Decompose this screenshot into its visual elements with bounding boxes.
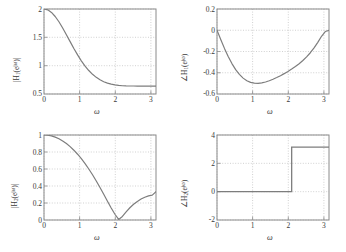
curve-magnitude-h2 [44,135,156,219]
xtick-br-2: 2 [281,221,295,230]
yaxis-label-tl: |H1(ejω)| [12,58,21,82]
subplot-magnitude-h2: 1 0.8 0.6 0.4 0.2 0 0 1 2 3 ω |H2(ejω)| [0,126,173,252]
figure-frequency-responses: 2 1.5 1 0.5 0 1 2 3 ω |H1(ejω)| [0,0,346,252]
curve-phase-h2 [217,147,329,192]
yaxis-label-br-prefix: ∠H [180,196,189,208]
xtick-tr-3: 3 [317,95,331,104]
yaxis-label-bl-prefix: |H [10,201,19,208]
yaxis-label-tl-prefix: |H [12,75,21,82]
curve-magnitude-h1-main [44,9,156,86]
yaxis-label-tr-sup: jω [180,56,186,61]
yaxis-label-br-sub: 2 [183,193,189,196]
ytick-tr-0p2: 0.2 [187,5,215,14]
axes-box-bl [44,135,156,220]
yaxis-label-tl-suffix: )| [12,58,21,62]
xtick-bl-3: 3 [144,221,158,230]
yaxis-label-tl-sup: jω [12,62,18,67]
ytick-br-4: 4 [193,131,215,140]
ticks-tr [217,30,324,94]
yaxis-label-tl-mid: (e [12,67,21,73]
xtick-tl-1: 1 [73,95,87,104]
yaxis-label-tr: ∠H1(ejω) [180,54,189,82]
ytick-bl-1: 1 [18,131,42,140]
ytick-bl-0p4: 0.4 [18,182,42,191]
ytick-tl-2: 2 [20,5,42,14]
xtick-br-1: 1 [246,221,260,230]
xtick-tr-1: 1 [246,95,260,104]
gridlines-bl [44,135,156,220]
ytick-br-2: 2 [193,159,215,168]
axes-box-tr [217,9,329,94]
xtick-tr-2: 2 [281,95,295,104]
xaxis-label-bl: ω [94,233,100,242]
xtick-tr-0: 0 [210,95,224,104]
subplot-phase-h1: 0.2 0 -0.2 -0.4 -0.6 0 1 2 3 ω ∠H1(ejω) [173,0,346,126]
xtick-bl-1: 1 [73,221,87,230]
yaxis-label-tr-suffix: ) [180,54,189,57]
ytick-tr-m0p2: -0.2 [187,47,215,56]
axes-box-tl [44,9,156,94]
xaxis-label-br: ω [267,233,273,242]
yaxis-label-tl-sub: 1 [15,72,21,75]
gridlines-tl [44,9,156,94]
xtick-bl-2: 2 [108,221,122,230]
ytick-tl-1: 1 [20,61,42,70]
curve-phase-h1 [217,30,329,83]
yaxis-label-bl-sub: 2 [13,198,19,201]
xtick-tl-2: 2 [108,95,122,104]
xtick-bl-0: 0 [37,221,51,230]
xaxis-label-tl: ω [94,107,100,116]
ytick-tr-0: 0 [187,26,215,35]
ytick-tl-1p5: 1.5 [20,33,42,42]
yaxis-label-br-suffix: ) [180,180,189,183]
yaxis-label-br-sup: jω [180,182,186,187]
ytick-bl-0p2: 0.2 [18,199,42,208]
ytick-bl-0p8: 0.8 [18,148,42,157]
xtick-br-3: 3 [317,221,331,230]
xtick-tl-3: 3 [144,95,158,104]
ytick-tr-m0p4: -0.4 [187,68,215,77]
ytick-br-0: 0 [193,187,215,196]
subplot-magnitude-h1: 2 1.5 1 0.5 0 1 2 3 ω |H1(ejω)| [0,0,173,126]
yaxis-label-bl: |H2(ejω)| [10,184,19,208]
yaxis-label-tr-mid: (e [180,61,189,67]
ytick-bl-0p6: 0.6 [18,165,42,174]
subplot-phase-h1-canvas [173,0,346,126]
xaxis-label-tr: ω [267,107,273,116]
xtick-br-0: 0 [210,221,224,230]
yaxis-label-bl-mid: (e [10,193,19,199]
yaxis-label-tr-sub: 1 [183,67,189,70]
yaxis-label-bl-suffix: )| [10,184,19,188]
xtick-tl-0: 0 [37,95,51,104]
gridlines-tr [217,9,329,94]
yaxis-label-br: ∠H2(ejω) [180,180,189,208]
yaxis-label-bl-sup: jω [10,188,16,193]
yaxis-label-tr-prefix: ∠H [180,70,189,82]
yaxis-label-br-mid: (e [180,187,189,193]
subplot-phase-h2: 4 2 0 -2 0 1 2 3 ω ∠H2(ejω) [173,126,346,252]
